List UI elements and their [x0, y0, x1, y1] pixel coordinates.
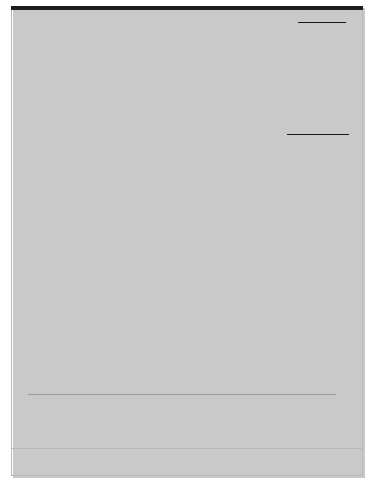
bar-series-container: [28, 20, 328, 395]
leader-line-awarded: [298, 22, 346, 23]
axis-baseline: [28, 394, 336, 395]
chart-plot-area: [28, 20, 328, 395]
top-rule: [11, 6, 363, 10]
infographic-page: [0, 0, 370, 485]
leader-line-unredeemed: [287, 134, 349, 135]
source-divider: [12, 448, 362, 449]
